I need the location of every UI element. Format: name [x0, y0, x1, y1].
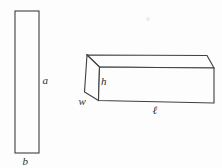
box-top-face	[87, 55, 214, 68]
rectangle-side-label: a	[43, 74, 49, 86]
box-height-label: h	[101, 75, 107, 87]
box-front-face	[99, 67, 215, 103]
rectangle-base-label: b	[23, 155, 29, 167]
scan-smudge	[146, 17, 150, 21]
box-length-label: ℓ	[153, 104, 158, 116]
box-width-label: w	[79, 95, 87, 107]
geometry-figure: a b h w ℓ	[0, 0, 222, 168]
figure-canvas: a b h w ℓ	[0, 0, 222, 168]
thin-rectangle	[15, 11, 39, 153]
